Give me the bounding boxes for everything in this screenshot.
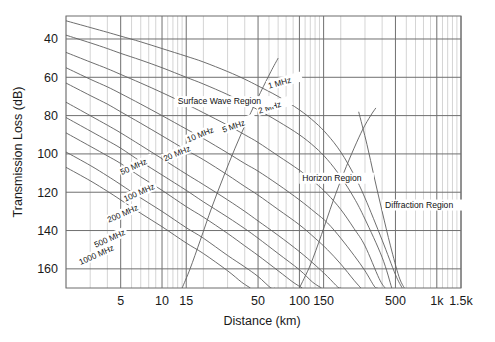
curve-5-mhz — [66, 52, 385, 288]
y-tick-label: 160 — [37, 262, 58, 276]
data-curves — [66, 21, 404, 289]
y-tick-label: 120 — [37, 186, 58, 200]
plot-frame — [66, 16, 461, 288]
curve-horizon-boundary-ascending — [182, 58, 278, 288]
y-tick-label: 40 — [44, 32, 58, 46]
y-tick-label: 80 — [44, 109, 58, 123]
annotation-surface-wave-region: Surface Wave Region — [178, 96, 261, 106]
y-tick-label: 60 — [44, 71, 58, 85]
curve-label-100-mhz: 100 MHz — [122, 182, 156, 204]
curve-label-50-mhz: 50 MHz — [119, 157, 148, 177]
x-tick-label: 1.5k — [449, 294, 473, 308]
x-axis-title: Distance (km) — [223, 314, 300, 328]
curve-2-mhz — [66, 35, 392, 288]
y-tick-label: 140 — [37, 224, 58, 238]
plot-border — [66, 16, 461, 288]
curve-label-20-mhz: 20 MHz — [162, 144, 191, 163]
y-axis-ticks: 406080100120140160 — [37, 32, 58, 276]
curve-label-5-mhz: 5 MHz — [221, 118, 246, 135]
x-gridlines — [66, 16, 461, 288]
x-tick-label: 5 — [117, 294, 124, 308]
annotation-horizon-region: Horizon Region — [302, 173, 361, 183]
curve-1000-mhz — [66, 167, 250, 288]
annotation-diffraction-region: Diffraction Region — [385, 200, 453, 210]
y-tick-label: 100 — [37, 147, 58, 161]
x-tick-label: 500 — [385, 294, 406, 308]
x-tick-label: 100 — [289, 294, 310, 308]
x-tick-label: 1k — [430, 294, 444, 308]
curve-label-10-mhz: 10 MHz — [186, 125, 216, 144]
curve-label-200-mhz: 200 MHz — [106, 203, 140, 225]
x-tick-label: 10 — [155, 294, 169, 308]
chart-canvas: 51015501001505001k1.5k 40608010012014016… — [0, 0, 495, 342]
y-axis-title: Transmission Loss (dB) — [11, 87, 25, 218]
x-tick-label: 15 — [179, 294, 193, 308]
curve-20-mhz — [66, 83, 361, 288]
region-annotations: Surface Wave RegionHorizon RegionDiffrac… — [175, 96, 477, 210]
grid-layer — [66, 16, 461, 288]
curve-500-mhz — [66, 152, 275, 289]
x-tick-label: 150 — [313, 294, 334, 308]
transmission-loss-chart: 51015501001505001k1.5k 40608010012014016… — [0, 0, 495, 342]
curve-label-1-mhz: 1 MHz — [267, 76, 292, 91]
x-tick-label: 50 — [251, 294, 265, 308]
x-axis-ticks: 51015501001505001k1.5k — [117, 294, 473, 308]
curve-200-mhz — [66, 133, 302, 288]
